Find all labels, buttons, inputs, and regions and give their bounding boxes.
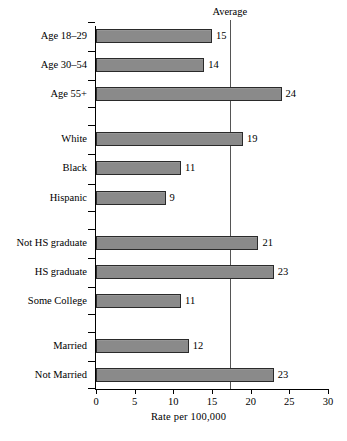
- x-tick-label: 0: [81, 395, 111, 408]
- y-tick: [88, 258, 95, 259]
- y-tick: [88, 388, 95, 389]
- bar: [96, 191, 166, 205]
- category-label: HS graduate: [0, 266, 87, 278]
- x-tick: [212, 389, 213, 394]
- bar-value-label: 9: [170, 192, 175, 204]
- y-tick: [88, 125, 95, 126]
- y-tick: [88, 51, 95, 52]
- bar: [96, 265, 274, 279]
- bar-value-label: 12: [193, 340, 204, 352]
- x-tick-label: 15: [197, 395, 227, 408]
- y-tick: [88, 332, 95, 333]
- x-axis-title: Rate per 100,000: [0, 411, 347, 422]
- bar: [96, 236, 258, 250]
- bar-chart: Average Age 18–29Age 30–54Age 55+WhiteBl…: [0, 0, 347, 441]
- x-tick-label: 25: [274, 395, 304, 408]
- y-axis-spine: [95, 26, 96, 389]
- bar-value-label: 19: [247, 133, 258, 145]
- x-tick: [173, 389, 174, 394]
- x-tick-label: 20: [236, 395, 266, 408]
- y-tick: [88, 22, 95, 23]
- category-label: Some College: [0, 295, 87, 307]
- bar-value-label: 11: [185, 295, 195, 307]
- bar: [96, 294, 181, 308]
- bar: [96, 58, 204, 72]
- average-label: Average: [212, 6, 247, 17]
- bar: [96, 87, 282, 101]
- bar-value-label: 23: [278, 266, 289, 278]
- category-label: Age 30–54: [0, 59, 87, 71]
- x-axis-title-text: Rate per 100,000: [151, 411, 226, 422]
- bar-value-label: 23: [278, 369, 289, 381]
- x-tick-label: 30: [313, 395, 343, 408]
- x-tick: [135, 389, 136, 394]
- bar: [96, 29, 212, 43]
- x-tick-label: 10: [158, 395, 188, 408]
- average-reference-line: [230, 20, 231, 389]
- y-tick: [88, 80, 95, 81]
- bar: [96, 368, 274, 382]
- x-tick-label: 5: [120, 395, 150, 408]
- y-tick: [88, 211, 95, 212]
- y-tick: [88, 229, 95, 230]
- category-label: Married: [0, 340, 87, 352]
- x-tick: [251, 389, 252, 394]
- bar: [96, 132, 243, 146]
- y-tick: [88, 107, 95, 108]
- y-tick: [88, 361, 95, 362]
- x-tick: [289, 389, 290, 394]
- y-tick: [88, 154, 95, 155]
- bar-value-label: 14: [208, 59, 219, 71]
- category-label: Not HS graduate: [0, 237, 87, 249]
- bar-value-label: 15: [216, 30, 227, 42]
- category-label: Black: [0, 162, 87, 174]
- category-label: Age 18–29: [0, 30, 87, 42]
- plot-area: Average Age 18–29Age 30–54Age 55+WhiteBl…: [0, 0, 347, 441]
- x-tick: [328, 389, 329, 394]
- y-tick: [88, 287, 95, 288]
- y-tick: [88, 314, 95, 315]
- bar: [96, 339, 189, 353]
- bar-value-label: 21: [262, 237, 273, 249]
- y-tick: [88, 184, 95, 185]
- bar: [96, 161, 181, 175]
- category-label: Age 55+: [0, 88, 87, 100]
- category-label: White: [0, 133, 87, 145]
- category-label: Hispanic: [0, 192, 87, 204]
- bar-value-label: 11: [185, 162, 195, 174]
- bar-value-label: 24: [286, 88, 297, 100]
- x-tick: [96, 389, 97, 394]
- category-label: Not Married: [0, 369, 87, 381]
